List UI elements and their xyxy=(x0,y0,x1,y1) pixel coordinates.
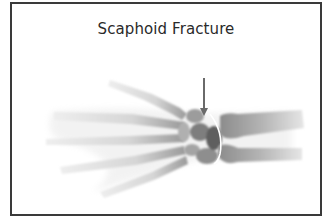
figure-frame: Scaphoid Fracture xyxy=(10,2,322,216)
hand-bones-illustration xyxy=(12,4,322,214)
fracture-arrow-icon xyxy=(200,78,208,116)
